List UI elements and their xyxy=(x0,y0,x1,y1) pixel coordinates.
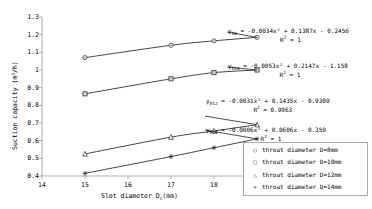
annotation-d8-r2: R2 = 1 xyxy=(228,36,349,45)
y-tick-label: 0.9 xyxy=(18,84,39,92)
legend-item-d10[interactable]: □ throat diameter D=10mm xyxy=(244,156,367,169)
legend: ○ throat diameter D=8mm □ throat diamete… xyxy=(243,142,368,196)
legend-item-d8-label: throat diameter D=8mm xyxy=(262,146,338,153)
chart-container: Suction capacity (m3/h) Slot diameter Ds… xyxy=(0,0,372,209)
legend-item-d14[interactable]: ✳ throat diameter D=14mm xyxy=(244,181,367,194)
x-tick-label: 15 xyxy=(75,181,95,189)
annotation-d10-equation: yD10 = -0.0053x² + 0.2147x - 1.158 xyxy=(228,62,348,71)
y-tick-label: 1.3 xyxy=(18,13,39,21)
y-tick-label: 1 xyxy=(18,66,39,74)
annotation-d8-equation: yD8 = -0.0034x² + 0.1387x - 0.2456 xyxy=(228,27,349,36)
legend-item-d10-label: throat diameter D=10mm xyxy=(262,158,341,165)
y-tick-label: 0.4 xyxy=(18,172,39,180)
circle-marker-icon: ○ xyxy=(250,146,260,153)
legend-item-d8[interactable]: ○ throat diameter D=8mm xyxy=(244,143,367,156)
x-tick-label: 18 xyxy=(204,181,224,189)
y-tick-label: 0.5 xyxy=(18,154,39,162)
annotation-d12-r2: R2 = 0.9963 xyxy=(206,106,330,115)
square-marker-icon: □ xyxy=(250,158,260,165)
x-tick-label: 14 xyxy=(32,181,52,189)
annotation-d12: yD12 = -0.0031x² + 0.1435x - 0.9309 R2 =… xyxy=(206,97,330,114)
annotation-d12-equation: yD12 = -0.0031x² + 0.1435x - 0.9309 xyxy=(206,97,330,106)
y-tick-label: 0.8 xyxy=(18,101,39,109)
asterisk-marker-icon: ✳ xyxy=(250,183,260,190)
legend-item-d12-label: throat diameter D=12mm xyxy=(262,171,341,178)
legend-item-d14-label: throat diameter D=14mm xyxy=(262,183,341,190)
x-tick-label: 17 xyxy=(161,181,181,189)
annotation-d10: yD10 = -0.0053x² + 0.2147x - 1.158 R2 = … xyxy=(228,62,348,79)
annotation-d10-r2: R2 = 1 xyxy=(228,71,348,80)
annotation-d14: yD14 = -0.0006x² + 0.0606x - 0.359 R2 = … xyxy=(206,126,326,143)
triangle-marker-icon: △ xyxy=(250,171,260,178)
annotation-d8: yD8 = -0.0034x² + 0.1387x - 0.2456 R2 = … xyxy=(228,27,349,44)
y-tick-label: 1.1 xyxy=(18,48,39,56)
y-tick-label: 0.7 xyxy=(18,119,39,127)
x-tick-label: 16 xyxy=(118,181,138,189)
annotation-leader-lines xyxy=(205,32,257,139)
y-tick-label: 0.6 xyxy=(18,137,39,145)
legend-item-d12[interactable]: △ throat diameter D=12mm xyxy=(244,168,367,181)
y-tick-label: 1.2 xyxy=(18,31,39,39)
